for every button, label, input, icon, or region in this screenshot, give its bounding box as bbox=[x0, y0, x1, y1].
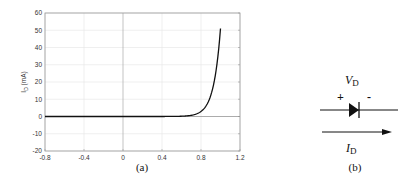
x-tick-label: -0.8 bbox=[39, 154, 51, 161]
iv-chart: -0.8-0.400.40.81.2 -20-100102030405060 I… bbox=[0, 0, 300, 185]
x-tick-label: 1.2 bbox=[235, 154, 244, 161]
diode-circuit-diagram: VD + - ID (b) bbox=[300, 40, 416, 185]
voltage-label: VD bbox=[345, 73, 359, 88]
diode-icon bbox=[349, 103, 359, 117]
x-tick-label: 0.8 bbox=[196, 154, 205, 161]
y-tick-label: 10 bbox=[35, 96, 43, 103]
y-axis-label: ID (mA) bbox=[20, 71, 29, 92]
caption-b: (b) bbox=[349, 161, 362, 174]
current-label: ID bbox=[345, 141, 357, 156]
y-tick-label: -20 bbox=[33, 147, 43, 154]
y-tick-label: 60 bbox=[35, 9, 43, 16]
plus-sign: + bbox=[337, 90, 344, 104]
x-tick-label: 0.4 bbox=[157, 154, 166, 161]
x-tick-labels: -0.8-0.400.40.81.2 bbox=[39, 154, 244, 161]
y-tick-label: -10 bbox=[33, 130, 43, 137]
y-tick-label: 20 bbox=[35, 78, 43, 85]
x-tick-label: -0.4 bbox=[78, 154, 90, 161]
grid-lines bbox=[45, 13, 240, 151]
y-tick-label: 30 bbox=[35, 61, 43, 68]
arrow-right-icon bbox=[382, 129, 392, 135]
y-tick-label: 50 bbox=[35, 27, 43, 34]
x-tick-label: 0 bbox=[121, 154, 125, 161]
y-tick-labels: -20-100102030405060 bbox=[33, 9, 43, 154]
diode-iv-curve bbox=[45, 29, 221, 117]
y-tick-label: 0 bbox=[38, 113, 42, 120]
minus-sign: - bbox=[367, 90, 371, 104]
y-tick-label: 40 bbox=[35, 44, 43, 51]
caption-a: (a) bbox=[136, 161, 149, 174]
